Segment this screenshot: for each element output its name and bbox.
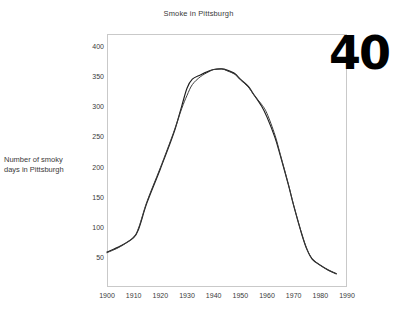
x-tick-label-1910: 1910: [126, 292, 142, 299]
page-number: 40: [329, 30, 389, 76]
x-tick-label-1970: 1970: [286, 292, 302, 299]
chart-figure: Smoke in Pittsburgh Number of smoky days…: [0, 0, 397, 314]
x-tick-label-1980: 1980: [313, 292, 329, 299]
data-series-layer: [107, 34, 347, 287]
x-tick-label-1930: 1930: [179, 292, 195, 299]
x-tick-label-1960: 1960: [259, 292, 275, 299]
x-tick-label-1940: 1940: [206, 292, 222, 299]
x-tick-label-1990: 1990: [339, 292, 355, 299]
series-line-1: [107, 69, 336, 274]
x-tick-label-1900: 1900: [99, 292, 115, 299]
series-line-0: [107, 69, 336, 274]
x-tick-label-1950: 1950: [233, 292, 249, 299]
x-tick-label-1920: 1920: [153, 292, 169, 299]
